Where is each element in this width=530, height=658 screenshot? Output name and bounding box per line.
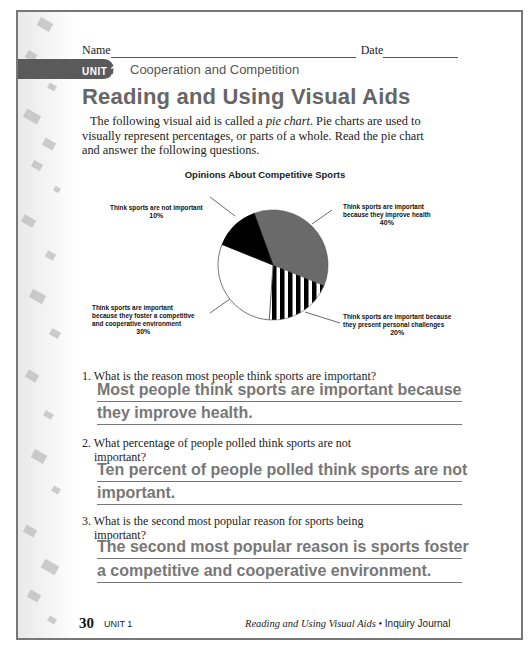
label-pct: 40% [343, 219, 431, 227]
question-number: 3. [82, 514, 91, 528]
label-line: they present personal challenges [343, 321, 444, 328]
label-pct: 10% [110, 212, 203, 220]
label-pct: 30% [92, 328, 195, 336]
label-line: because they improve health [343, 211, 431, 218]
page-number: 30 [79, 615, 94, 632]
label-health: Think sports are important because they … [343, 203, 431, 227]
label-line: Think sports are important because [343, 313, 451, 320]
label-not-important: Think sports are not important 10% [110, 204, 203, 220]
label-line: and cooperative environment [92, 320, 181, 327]
footer-journal: Inquiry Journal [385, 618, 451, 629]
footer-title: Reading and Using Visual Aids • Inquiry … [245, 618, 450, 629]
label-line: Think sports are important [343, 203, 424, 210]
question-text: What percentage of people polled think s… [94, 436, 351, 450]
label-text: Think sports are not important [110, 204, 203, 211]
footer-title-italic: Reading and Using Visual Aids [245, 618, 376, 629]
footer-separator: • [379, 618, 383, 629]
answer-3-line-2[interactable]: a competitive and cooperative environmen… [97, 560, 462, 583]
question-number: 1. [82, 369, 91, 383]
question-number: 2. [82, 436, 91, 450]
label-challenges: Think sports are important because they … [343, 313, 451, 337]
label-line: Think sports are important [92, 304, 173, 311]
label-environment: Think sports are important because they … [92, 304, 195, 336]
answer-2-line-2[interactable]: important. [97, 482, 462, 505]
answer-3-line-1[interactable]: The second most popular reason is sports… [97, 536, 462, 559]
answer-2-line-1[interactable]: Ten percent of people polled think sport… [97, 459, 462, 482]
label-line: because they foster a competitive [92, 312, 195, 319]
question-text: What is the second most popular reason f… [94, 514, 364, 528]
answer-1-line-1[interactable]: Most people think sports are important b… [97, 379, 462, 402]
label-pct: 20% [343, 329, 451, 337]
answer-1-line-2[interactable]: they improve health. [97, 402, 462, 425]
footer-unit: UNIT 1 [104, 619, 132, 629]
